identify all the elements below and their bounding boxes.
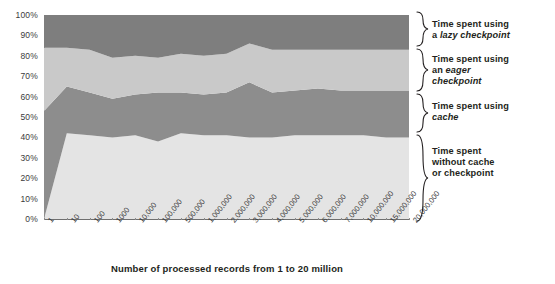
y-axis-tick-label: 30% <box>20 153 38 163</box>
legend-label-line2-em: lazy checkpoint <box>440 30 510 40</box>
x-axis-tick-mark <box>318 218 319 220</box>
legend-braces <box>414 6 430 230</box>
x-axis-tick-mark <box>204 218 205 220</box>
y-axis-tick-label: 40% <box>20 132 38 142</box>
x-axis-tick-mark <box>341 218 342 220</box>
legend: Time spent using a lazy checkpoint Time … <box>414 6 555 230</box>
x-axis-title: Number of processed records from 1 to 20… <box>44 263 410 274</box>
stacked-area-svg <box>44 15 409 219</box>
y-axis-tick-label: 100% <box>15 10 38 20</box>
legend-label-line1: Time spent <box>432 146 481 156</box>
x-axis-tick-mark <box>67 218 68 220</box>
legend-item-eager-checkpoint: Time spent using an eager checkpoint <box>432 54 509 88</box>
x-axis-tick-mark <box>90 218 91 220</box>
y-axis-tick-label: 20% <box>20 173 38 183</box>
legend-item-cache: Time spent using cache <box>432 101 509 123</box>
legend-label-line1: Time spent using <box>432 19 509 29</box>
x-axis: 110100100010,000100,000500,0001,000,0002… <box>44 220 414 262</box>
legend-label-line1: Time spent using <box>432 54 509 64</box>
legend-label-line1: Time spent using <box>432 101 509 111</box>
y-axis-tick-label: 70% <box>20 71 38 81</box>
x-axis-tick-mark <box>227 218 228 220</box>
x-axis-tick-mark <box>295 218 296 220</box>
legend-item-no-cache: Time spent without cache or checkpoint <box>432 146 495 180</box>
y-axis-tick-label: 90% <box>20 30 38 40</box>
legend-label-line2: without cache <box>432 157 495 167</box>
y-axis-tick-label: 0% <box>25 214 38 224</box>
legend-label-line2-pre: an <box>432 65 446 75</box>
legend-label-line2-pre: a <box>432 30 440 40</box>
legend-label-line3: or checkpoint <box>432 168 494 178</box>
y-axis-tick-label: 60% <box>20 92 38 102</box>
legend-item-lazy-checkpoint: Time spent using a lazy checkpoint <box>432 19 510 41</box>
chart-root: 0%10%20%30%40%50%60%70%80%90%100% 110100… <box>0 0 555 284</box>
legend-label-line2-em: eager <box>446 65 471 75</box>
legend-label-line3-em: checkpoint <box>432 76 482 86</box>
y-axis: 0%10%20%30%40%50%60%70%80%90%100% <box>0 8 40 226</box>
plot-area <box>44 15 409 219</box>
x-axis-tick-mark <box>181 218 182 220</box>
y-axis-tick-label: 80% <box>20 51 38 61</box>
y-axis-tick-label: 50% <box>20 112 38 122</box>
y-axis-tick-label: 10% <box>20 194 38 204</box>
legend-label-line2-em: cache <box>432 112 459 122</box>
